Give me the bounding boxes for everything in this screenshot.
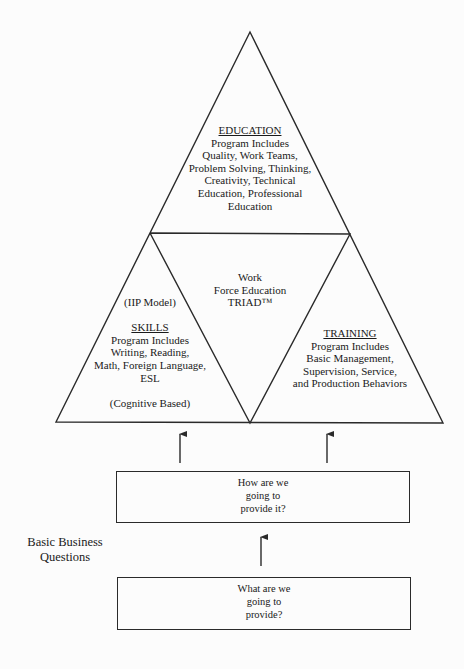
education-line: Problem Solving, Thinking, (150, 162, 350, 175)
center-line: Force Education (190, 284, 310, 297)
training-line: Program Includes (250, 340, 450, 353)
training-line: Basic Management, (250, 352, 450, 365)
how-question-box: How are we going to provide it? (116, 471, 410, 523)
training-section: TRAINING Program Includes Basic Manageme… (250, 327, 450, 390)
skills-line: Program Includes (50, 334, 250, 347)
education-heading: EDUCATION (150, 124, 350, 137)
what-question-text: What are we going to provide? (118, 582, 410, 621)
skills-line: ESL (50, 372, 250, 385)
skills-heading: SKILLS (50, 321, 250, 334)
what-question-box: What are we going to provide? (117, 577, 411, 630)
education-section: EDUCATION Program Includes Quality, Work… (150, 124, 350, 212)
skills-line: Writing, Reading, (50, 346, 250, 359)
skills-line: Math, Foreign Language, (50, 359, 250, 372)
skills-model-note: (IIP Model) (50, 296, 250, 309)
education-line: Education (150, 200, 350, 213)
skills-footer-note: (Cognitive Based) (50, 397, 250, 410)
how-question-text: How are we going to provide it? (117, 476, 409, 515)
education-line: Quality, Work Teams, (150, 149, 350, 162)
basic-business-questions-label: Basic Business Questions (20, 535, 110, 565)
training-heading: TRAINING (250, 327, 450, 340)
training-line: and Production Behaviors (250, 377, 450, 390)
training-line: Supervision, Service, (250, 365, 450, 378)
skills-section: (IIP Model) SKILLS Program Includes Writ… (50, 296, 250, 409)
education-line: Education, Professional (150, 187, 350, 200)
center-line: Work (190, 271, 310, 284)
education-line: Creativity, Technical (150, 174, 350, 187)
education-line: Program Includes (150, 137, 350, 150)
